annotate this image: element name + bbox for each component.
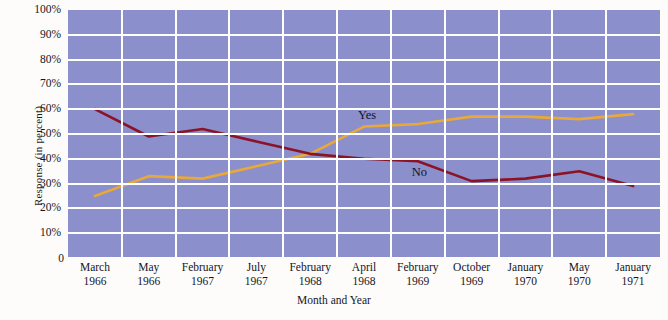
series-label-no: No xyxy=(412,165,427,180)
x-tick-year: 1971 xyxy=(594,274,668,288)
gridline-horizontal xyxy=(68,257,660,258)
gridline-vertical xyxy=(336,10,338,258)
y-axis-tick: 50% xyxy=(40,128,61,139)
y-axis-tick: 80% xyxy=(40,54,61,65)
y-axis-tick: 20% xyxy=(40,202,61,213)
x-tick-month: January xyxy=(594,260,668,274)
line-chart: Response (in percent) 100%90%80%70%60%50… xyxy=(0,0,668,320)
gridline-horizontal xyxy=(68,183,660,185)
gridline-horizontal xyxy=(68,133,660,135)
gridline-vertical xyxy=(444,10,446,258)
y-axis-tick-labels: 100%90%80%70%60%50%40%30%20%10% xyxy=(18,0,64,270)
y-axis-tick: 70% xyxy=(40,78,61,89)
gridline-vertical xyxy=(175,10,177,258)
x-axis-title: Month and Year xyxy=(0,294,668,306)
gridline-vertical xyxy=(228,10,230,258)
y-axis-tick: 90% xyxy=(40,29,61,40)
gridline-horizontal xyxy=(68,207,660,209)
gridline-vertical xyxy=(282,10,284,258)
y-axis-tick: 40% xyxy=(40,153,61,164)
gridline-vertical xyxy=(121,10,123,258)
series-label-yes: Yes xyxy=(358,108,376,123)
y-axis-tick: 10% xyxy=(40,227,61,238)
y-axis-tick: 30% xyxy=(40,178,61,189)
y-axis-tick: 60% xyxy=(40,103,61,114)
x-axis-tick: January1971 xyxy=(594,260,668,288)
gridline-horizontal xyxy=(68,232,660,234)
gridline-vertical xyxy=(551,10,553,258)
gridline-vertical xyxy=(605,10,607,258)
y-axis-tick: 100% xyxy=(34,4,61,15)
gridline-vertical xyxy=(390,10,392,258)
gridline-horizontal xyxy=(68,34,660,36)
gridline-horizontal xyxy=(68,59,660,61)
gridline-horizontal xyxy=(68,158,660,160)
gridline-vertical xyxy=(498,10,500,258)
gridline-horizontal xyxy=(68,83,660,85)
plot-area: YesNo xyxy=(68,10,660,258)
